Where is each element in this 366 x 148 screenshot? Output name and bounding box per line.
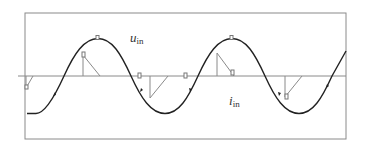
marker-axis-2 bbox=[184, 73, 187, 78]
marker-peak-1 bbox=[96, 36, 99, 40]
tick-4 bbox=[278, 92, 281, 96]
label-i-subscript: in bbox=[233, 99, 240, 109]
label-u-subscript: in bbox=[137, 36, 144, 46]
marker-axis-1 bbox=[138, 73, 141, 78]
marker-tri-0 bbox=[25, 85, 28, 89]
marker-peak-2 bbox=[230, 36, 233, 40]
marker-tri-3 bbox=[231, 70, 234, 75]
waveform-diagram bbox=[0, 0, 366, 148]
phase-triangle-2 bbox=[150, 76, 168, 98]
marker-tri-1 bbox=[82, 52, 85, 57]
phase-triangle-1 bbox=[83, 55, 100, 76]
tick-2 bbox=[140, 88, 143, 92]
marker-tri-4 bbox=[285, 94, 288, 99]
label-i-in: iin bbox=[229, 94, 240, 109]
label-u-in: uin bbox=[130, 31, 144, 46]
